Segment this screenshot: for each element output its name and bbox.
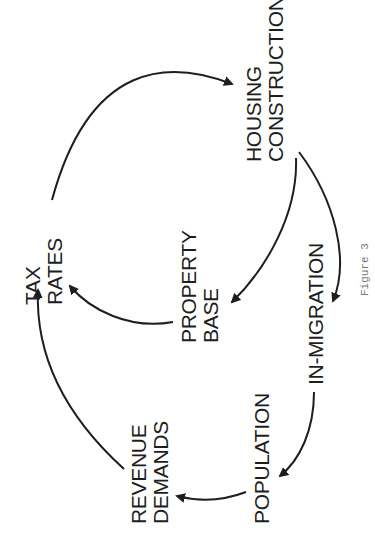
node-property-base: PROPERTY BASE [178,230,222,343]
arrow-housing-to-property [232,158,296,302]
arrow-population-to-revenue [177,492,246,499]
node-population: POPULATION [251,393,273,524]
node-in-migration: IN-MIGRATION [305,243,327,385]
arrow-property-to-tax [70,286,173,324]
arrow-inmigration-to-population [280,392,314,476]
node-housing-construction: HOUSING CONSTRUCTION [243,0,287,162]
arrow-tax-to-housing [52,72,232,200]
figure-caption: Figure 3 [359,243,371,296]
causal-loop-diagram: HOUSING CONSTRUCTION TAX RATES PROPERTY … [0,0,375,548]
arrow-revenue-to-tax [38,290,124,469]
node-tax-rates: TAX RATES [22,238,66,305]
node-revenue-demands: REVENUE DEMANDS [128,421,172,524]
